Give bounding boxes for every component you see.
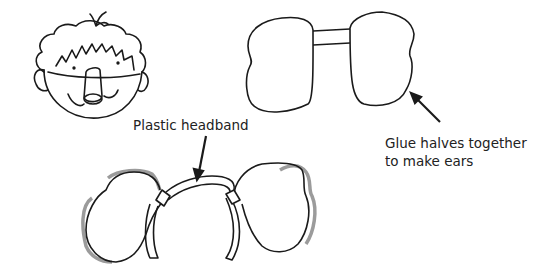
craft-illustration: Plastic headband Glue halves together to… xyxy=(0,0,544,275)
glue-label: Glue halves together to make ears xyxy=(385,134,527,170)
glue-arrow xyxy=(411,93,440,122)
ear-halves-figure xyxy=(247,12,414,112)
headband-figure xyxy=(83,163,315,262)
headband-arrow xyxy=(194,136,206,180)
headband-label: Plastic headband xyxy=(133,116,249,134)
child-face-figure xyxy=(34,12,148,118)
glue-label-line1: Glue halves together xyxy=(385,134,527,152)
glue-label-line2: to make ears xyxy=(385,152,527,170)
